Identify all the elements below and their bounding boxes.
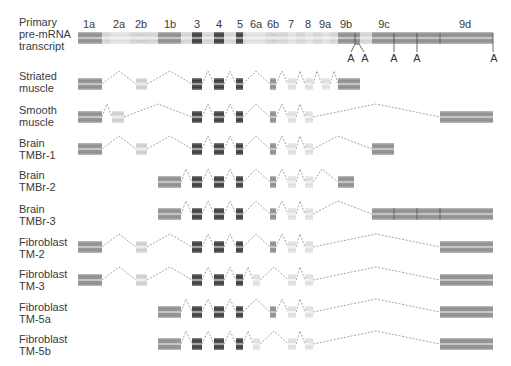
isoform-tm-5a: [158, 306, 493, 318]
exon-graphics: [0, 0, 511, 366]
isoform-tm-5b: [158, 338, 493, 350]
isoform-striated-muscle: [78, 78, 360, 90]
isoform-smooth-muscle: [78, 111, 493, 123]
isoform-tm-2: [78, 241, 493, 253]
isoform-tmbr-3: [158, 208, 493, 220]
isoform-tmbr-2: [158, 176, 354, 188]
isoform-tm-3: [78, 274, 493, 286]
primary-transcript: [78, 32, 493, 52]
isoform-tmbr-1: [78, 143, 394, 155]
